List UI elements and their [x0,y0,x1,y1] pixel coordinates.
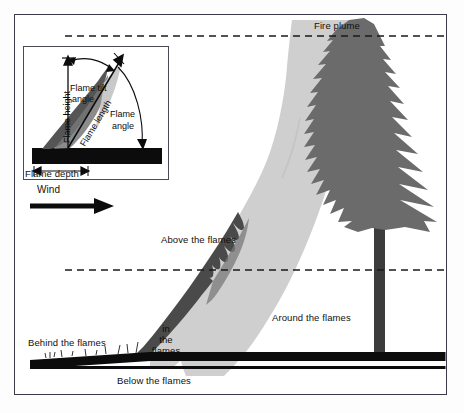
ground-baseline [30,366,446,369]
figure-canvas: Flame height Flame tilt angle Flame leng… [0,0,464,413]
label-in-the-flames-line3: flames [142,345,190,356]
label-in-the-flames-line1: in [146,323,186,334]
flame-angle-arc [118,67,142,146]
label-above-the-flames: Above the flames [161,234,236,245]
inset-label-flame-tilt-angle-line2: angle [72,94,94,104]
label-in-the-flames-line2: the [146,334,186,345]
inset-label-flame-angle-line1: Flame [110,109,135,119]
inset-label-flame-depth: Flame depth [25,168,79,179]
flame-tilt-angle-arc [71,59,112,69]
label-behind-the-flames: Behind the flames [28,337,106,348]
inset-label-flame-angle-line2: angle [112,121,134,131]
label-below-the-flames: Below the flames [117,375,191,386]
inset-fuel-bed [32,148,162,164]
ground-bar-right [150,352,446,361]
label-fire-plume: Fire plume [314,20,360,31]
flame-geometry-inset: Flame height Flame tilt angle Flame leng… [23,46,169,180]
inset-label-flame-height: Flame height [62,91,72,143]
label-wind: Wind [37,184,60,195]
inset-label-flame-tilt-angle-line1: Flame tilt [70,83,107,93]
tree-trunk [374,228,385,356]
label-around-the-flames: Around the flames [272,312,351,323]
wind-arrow-icon [30,198,114,214]
